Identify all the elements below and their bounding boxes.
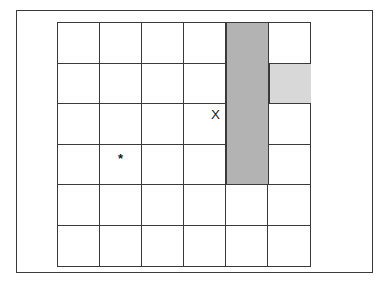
grid-cell[interactable] (226, 185, 268, 226)
grid-cell[interactable] (184, 23, 226, 64)
dark-shaded-column[interactable] (226, 22, 269, 185)
grid-cell[interactable] (100, 185, 142, 226)
grid-cell[interactable] (226, 226, 268, 267)
light-shaded-cell[interactable] (269, 63, 311, 104)
grid-cell[interactable] (268, 226, 310, 267)
grid-cell[interactable] (100, 64, 142, 105)
grid-cell[interactable] (142, 64, 184, 105)
grid-cell[interactable] (184, 226, 226, 267)
grid-cell[interactable] (184, 64, 226, 105)
grid-cell[interactable] (58, 145, 100, 186)
grid-cell[interactable] (142, 23, 184, 64)
x-marker: X (211, 108, 220, 122)
grid-cell[interactable] (268, 104, 310, 145)
grid-cell[interactable] (58, 23, 100, 64)
grid-cell[interactable] (100, 226, 142, 267)
grid-cell[interactable] (100, 104, 142, 145)
grid-cell[interactable] (58, 226, 100, 267)
star-marker: * (118, 152, 123, 165)
figure-canvas: X * (0, 0, 388, 291)
grid-cell[interactable] (142, 226, 184, 267)
grid-cell[interactable] (58, 185, 100, 226)
grid-container: X * (57, 22, 311, 267)
grid-cell[interactable] (142, 185, 184, 226)
grid-cell[interactable] (100, 23, 142, 64)
grid-cell[interactable] (268, 145, 310, 186)
grid-cell[interactable] (184, 145, 226, 186)
grid-cell[interactable] (184, 185, 226, 226)
grid-cell-with-x-marker[interactable]: X (184, 104, 226, 145)
grid-cell[interactable] (58, 104, 100, 145)
grid-cell[interactable] (268, 185, 310, 226)
grid-cell[interactable] (268, 23, 310, 64)
grid-cell-with-star-marker[interactable]: * (100, 145, 142, 186)
grid-cell[interactable] (142, 104, 184, 145)
grid-cell[interactable] (58, 64, 100, 105)
grid-cell[interactable] (142, 145, 184, 186)
